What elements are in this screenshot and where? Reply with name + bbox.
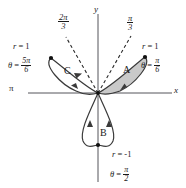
callout-bottom-theta-symbol: θ <box>110 169 114 179</box>
callout-left-theta: θ = 5π 6 <box>8 57 31 75</box>
callout-right-r-equals: = <box>147 41 152 51</box>
callout-right-theta-denominator: 6 <box>154 65 160 74</box>
callout-bottom-theta-denominator: 2 <box>123 174 129 183</box>
callout-right-r-value: 1 <box>154 41 158 51</box>
pi-axis-label: π <box>9 84 14 93</box>
arrow-petal-b-left <box>87 120 93 127</box>
polar-graph-figure: y x π A B C 2π 3 π 3 r = 1 θ = π 6 r = 1 <box>0 0 186 188</box>
tip-dot-petal-b <box>96 143 100 147</box>
callout-left-theta-symbol: θ <box>8 60 12 70</box>
dashed-ray-label-two-pi-over-three: 2π 3 <box>58 13 69 32</box>
two-pi-over-three-numerator: 2π <box>58 13 69 22</box>
arrow-petal-c-lower <box>71 83 78 89</box>
callout-bottom-r: r = -1 <box>112 150 131 159</box>
callout-bottom-theta-equals: = <box>116 169 121 179</box>
callout-left-r-symbol: r <box>13 41 16 51</box>
callout-right-theta-numerator: π <box>154 57 160 65</box>
callout-right-theta: θ = π 6 <box>141 57 160 75</box>
tip-dot-petal-c <box>49 56 53 60</box>
callout-bottom-r-equals: = <box>117 149 122 159</box>
petal-label-c: C <box>64 66 71 76</box>
figure-canvas <box>0 0 186 188</box>
callout-bottom-theta: θ = π 2 <box>110 166 129 184</box>
petal-label-b: B <box>100 128 107 138</box>
callout-bottom-r-value: -1 <box>124 149 131 159</box>
y-axis-label: y <box>94 5 98 14</box>
dashed-ray-label-pi-over-three: π 3 <box>127 14 133 33</box>
x-axis-label: x <box>174 86 178 95</box>
callout-bottom-theta-numerator: π <box>123 166 129 174</box>
origin-dot <box>96 91 100 95</box>
callout-left-r-value: 1 <box>25 41 29 51</box>
callout-left-r: r = 1 <box>13 42 30 51</box>
callout-right-theta-equals: = <box>147 60 152 70</box>
callout-left-r-equals: = <box>18 41 23 51</box>
callout-right-r: r = 1 <box>142 42 159 51</box>
petal-label-a: A <box>123 65 130 75</box>
two-pi-over-three-denominator: 3 <box>58 21 69 31</box>
callout-left-theta-numerator: 5π <box>21 57 31 65</box>
pi-over-three-denominator: 3 <box>127 22 133 32</box>
callout-left-theta-denominator: 6 <box>21 65 31 74</box>
callout-right-r-symbol: r <box>142 41 145 51</box>
petal-c-shape <box>49 58 98 94</box>
pi-over-three-numerator: π <box>127 14 133 23</box>
callout-bottom-r-symbol: r <box>112 149 115 159</box>
callout-right-theta-symbol: θ <box>141 60 145 70</box>
callout-left-theta-equals: = <box>14 60 19 70</box>
